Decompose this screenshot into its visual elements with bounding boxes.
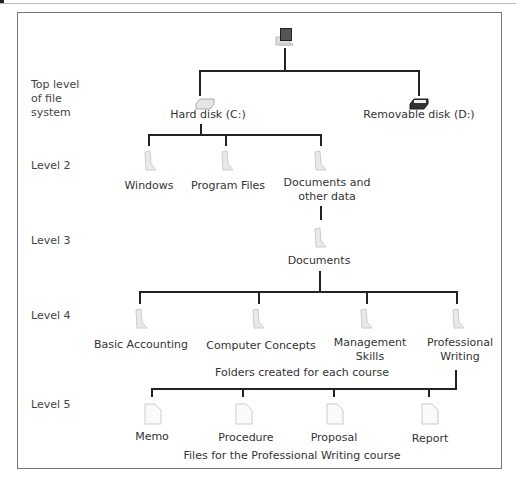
folder-icon[interactable] (312, 150, 328, 176)
file-icon[interactable] (144, 403, 162, 429)
connector (418, 70, 420, 96)
connector (151, 388, 153, 397)
connector (242, 388, 244, 397)
connector (199, 70, 419, 72)
folder-icon[interactable] (133, 308, 149, 334)
file-label: Procedure (218, 431, 273, 445)
file-label: Memo (135, 430, 169, 444)
connector (148, 134, 322, 136)
level-label-top: Top level of file system (31, 78, 79, 120)
folder-icon[interactable] (142, 150, 158, 176)
connector (428, 388, 430, 397)
connector (320, 206, 322, 220)
connector (366, 291, 368, 304)
folder-label: Windows (124, 179, 173, 193)
folder-label: Basic Accounting (94, 338, 188, 352)
connector (320, 134, 322, 146)
level-label-4: Level 4 (31, 309, 71, 323)
level4-caption: Folders created for each course (215, 366, 389, 379)
file-icon[interactable] (421, 403, 439, 429)
folder-icon[interactable] (250, 308, 266, 334)
level-label-2: Level 2 (31, 159, 71, 173)
corner-mark (0, 0, 4, 3)
connector (258, 291, 260, 304)
folder-icon[interactable] (312, 227, 328, 253)
connector (225, 134, 227, 146)
file-icon[interactable] (326, 403, 344, 429)
file-label: Report (412, 432, 448, 446)
connector (319, 271, 321, 293)
connector (455, 370, 457, 390)
level-label-5: Level 5 (31, 398, 71, 412)
connector (456, 291, 458, 304)
connector (151, 388, 457, 390)
folder-icon[interactable] (219, 150, 235, 176)
drive-label: Hard disk (C:) (170, 108, 245, 122)
folder-label: Documents and other data (284, 176, 371, 204)
drive-label: Removable disk (D:) (363, 108, 474, 122)
connector (148, 134, 150, 146)
connector (139, 291, 141, 304)
folder-label: Computer Concepts (206, 339, 315, 353)
folder-icon[interactable] (450, 308, 466, 334)
folder-label: Documents (288, 254, 351, 268)
connector (139, 291, 458, 293)
folder-label: Professional Writing (427, 336, 493, 364)
connector (284, 48, 286, 71)
level-label-3: Level 3 (31, 234, 71, 248)
folder-icon[interactable] (358, 308, 374, 334)
folder-label: Program Files (191, 179, 265, 193)
level5-caption: Files for the Professional Writing cours… (184, 449, 401, 462)
diagram-frame (17, 12, 502, 469)
file-icon[interactable] (235, 403, 253, 429)
page-top-rule (0, 0, 516, 4)
connector (199, 70, 201, 96)
file-label: Proposal (311, 431, 358, 445)
folder-label: Management Skills (334, 336, 406, 364)
connector (333, 388, 335, 397)
